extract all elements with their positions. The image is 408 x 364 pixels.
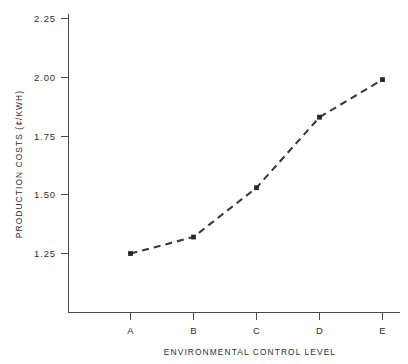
x-axis-title: ENVIRONMENTAL CONTROL LEVEL: [164, 347, 336, 357]
y-tick-label-1.25: 1.25: [34, 248, 56, 259]
data-point-E: [380, 77, 385, 82]
data-point-D: [317, 115, 322, 120]
data-point-C: [254, 185, 259, 190]
y-tick-label-1.75: 1.75: [34, 131, 56, 142]
x-tick-label-D: D: [316, 325, 323, 336]
chart-background: [0, 0, 408, 364]
data-point-B: [191, 235, 196, 240]
data-point-A: [128, 251, 133, 256]
y-axis-title: PRODUCTION COSTS (¢/KWH): [14, 90, 24, 238]
y-tick-label-2.00: 2.00: [34, 72, 56, 83]
y-tick-label-2.25: 2.25: [34, 13, 56, 24]
line-chart-figure: 2.25 2.00 1.75 1.50 1.25 A B C D E ENVIR…: [0, 0, 408, 364]
x-tick-label-E: E: [379, 325, 385, 336]
x-tick-label-A: A: [127, 325, 134, 336]
x-tick-label-C: C: [253, 325, 260, 336]
y-tick-label-1.50: 1.50: [34, 189, 56, 200]
chart-canvas: 2.25 2.00 1.75 1.50 1.25 A B C D E ENVIR…: [0, 0, 408, 364]
x-tick-label-B: B: [190, 325, 196, 336]
